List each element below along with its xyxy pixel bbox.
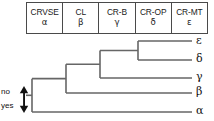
polarity-no-label: no (1, 88, 10, 96)
cladogram (0, 0, 214, 121)
polarity-annotation: no yes (1, 86, 31, 116)
cladogram-branches (26, 41, 192, 112)
leaf-label-beta: β (196, 86, 202, 97)
figure-root: CRVSE α CL β CR-B γ CR-OP δ CR-MT ε (0, 0, 214, 121)
leaf-label-delta: δ (196, 53, 203, 64)
leaf-label-gamma: γ (196, 71, 203, 82)
leaf-label-alpha: α (196, 105, 203, 116)
polarity-yes-label: yes (1, 102, 13, 110)
double-arrow-vertical-icon (18, 86, 30, 113)
leaf-label-epsilon: ε (196, 35, 202, 46)
